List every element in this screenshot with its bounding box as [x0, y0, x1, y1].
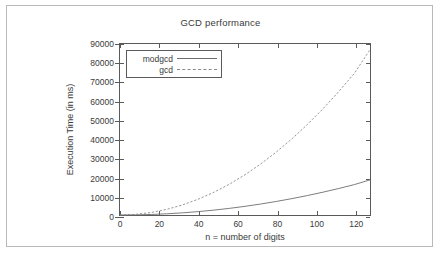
x-tick-label: 80: [273, 219, 282, 229]
x-tick-label: 40: [194, 219, 203, 229]
x-tick-label: 60: [233, 219, 242, 229]
y-tick-label: 80000: [90, 58, 114, 68]
figure-panel: GCD performance Execution Time (in ms) n…: [6, 5, 433, 247]
legend-label-modgcd: modgcd: [129, 54, 177, 64]
y-tick-label: 40000: [90, 135, 114, 145]
legend-item-modgcd: modgcd: [129, 53, 217, 64]
y-tick-label: 0: [109, 212, 114, 222]
x-tick-label: 0: [118, 219, 123, 229]
y-tick-label: 60000: [90, 97, 114, 107]
legend: modgcd gcd: [126, 50, 222, 78]
legend-sample-dashed-icon: [177, 66, 217, 73]
legend-sample-solid-icon: [177, 55, 217, 62]
x-tick-label: 120: [349, 219, 363, 229]
y-tick-label: 90000: [90, 39, 114, 49]
legend-item-gcd: gcd: [129, 64, 217, 75]
y-tick-mark-right: [366, 217, 370, 218]
y-tick-label: 50000: [90, 116, 114, 126]
x-tick-label: 100: [310, 219, 324, 229]
plot-area: 0100002000030000400005000060000700008000…: [119, 43, 371, 216]
x-tick-label: 20: [155, 219, 164, 229]
y-tick-label: 30000: [90, 154, 114, 164]
x-axis-title: n = number of digits: [119, 232, 371, 242]
y-tick-label: 10000: [90, 193, 114, 203]
y-tick-label: 20000: [90, 174, 114, 184]
y-tick-label: 70000: [90, 77, 114, 87]
series-line-modgcd: [120, 180, 370, 215]
chart-title: GCD performance: [7, 17, 434, 28]
legend-label-gcd: gcd: [129, 65, 177, 75]
y-tick-mark-inner: [120, 217, 124, 218]
y-axis-title: Execution Time (in ms): [65, 43, 77, 216]
